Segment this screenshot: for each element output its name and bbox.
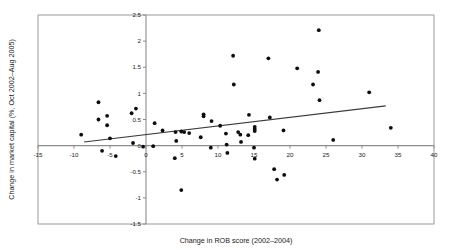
data-point (272, 167, 276, 171)
x-axis-tick-label: 0 (144, 151, 148, 158)
data-point (105, 114, 109, 118)
data-point (210, 119, 214, 123)
data-point (182, 130, 186, 134)
data-point (268, 116, 272, 120)
x-axis-tick-label: -5 (107, 151, 113, 158)
data-point (141, 145, 145, 149)
x-axis-tick-label: 15 (251, 151, 258, 158)
data-point (225, 143, 229, 147)
data-point (252, 146, 256, 150)
data-point (318, 98, 322, 102)
data-point (130, 111, 134, 115)
data-point (174, 130, 178, 134)
y-axis-tick-label: -0.5 (130, 168, 141, 175)
x-axis-tick-label: 20 (287, 151, 294, 158)
data-point (202, 114, 206, 118)
y-axis-tick-label: 2 (138, 37, 142, 44)
data-point (238, 133, 242, 137)
y-axis-tick-label: 0 (138, 142, 142, 149)
data-point (232, 83, 236, 87)
trend-line (84, 106, 386, 142)
data-point (179, 188, 183, 192)
data-point (282, 129, 286, 133)
data-point (114, 154, 118, 158)
data-point (231, 54, 235, 58)
data-point (239, 140, 243, 144)
x-axis-title: Change in ROB score (2002–2004) (180, 236, 293, 245)
x-axis-tick-label: -15 (34, 151, 44, 158)
scatter-plot-figure: -15-10-50510152025303540-1.5-1-0.500.511… (0, 0, 457, 250)
data-point (267, 56, 271, 60)
data-point (247, 113, 251, 117)
data-point (224, 132, 228, 136)
x-axis-tick-label: 25 (323, 151, 330, 158)
y-axis-tick-label: 1.5 (132, 63, 141, 70)
data-point (79, 133, 83, 137)
data-point (331, 138, 335, 142)
data-point (105, 123, 109, 127)
data-point (225, 151, 229, 155)
x-axis-tick-label: 30 (359, 151, 366, 158)
data-point (311, 83, 315, 87)
data-point (97, 100, 101, 104)
x-axis-tick-label: 40 (431, 151, 438, 158)
data-point (253, 129, 257, 133)
y-axis-tick-label: 1 (138, 90, 142, 97)
x-axis-tick-label: 35 (395, 151, 402, 158)
data-point (282, 173, 286, 177)
data-point (246, 133, 250, 137)
data-point (108, 136, 112, 140)
data-point (173, 156, 177, 160)
data-point (174, 139, 178, 143)
data-point (100, 149, 104, 153)
y-axis-tick-label: -1 (135, 194, 141, 201)
y-axis-title: Change in market capital (%, Oct 2002–Au… (7, 39, 16, 200)
data-point (153, 121, 157, 125)
plot-canvas: -15-10-50510152025303540-1.5-1-0.500.511… (0, 0, 457, 250)
data-point (316, 70, 320, 74)
x-axis-tick-label: -10 (70, 151, 80, 158)
data-point (389, 126, 393, 130)
data-point (295, 66, 299, 70)
y-axis-tick-label: 2.5 (132, 11, 141, 18)
y-axis-tick-label: -1.5 (130, 220, 141, 227)
data-point (134, 107, 138, 111)
x-axis-tick-label: 10 (215, 151, 222, 158)
data-point (199, 135, 203, 139)
x-axis-tick-label: 5 (180, 151, 184, 158)
data-points-group (79, 28, 392, 192)
data-point (131, 141, 135, 145)
data-point (209, 146, 213, 150)
data-point (97, 118, 101, 122)
data-point (161, 129, 165, 133)
data-point (367, 90, 371, 94)
data-point (317, 28, 321, 32)
data-point (275, 178, 279, 182)
y-axis-tick-label: 0.5 (132, 116, 141, 123)
data-point (151, 144, 155, 148)
data-point (218, 124, 222, 128)
data-point (187, 131, 191, 135)
data-point (253, 157, 257, 161)
